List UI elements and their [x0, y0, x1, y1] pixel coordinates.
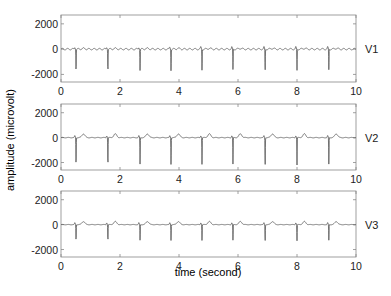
x-tick-label: 10: [350, 173, 362, 185]
x-tick-label: 6: [235, 85, 241, 97]
y-tick-label: 2000: [35, 107, 59, 119]
x-tick-label: 0: [58, 173, 64, 185]
y-tick-label: -2000: [31, 157, 58, 169]
panels: -2000020000246810V1-2000020000246810V2-2…: [31, 15, 378, 272]
y-tick-label: 0: [52, 219, 58, 231]
x-tick-label: 4: [176, 85, 182, 97]
lead-label-v1: V1: [365, 43, 378, 55]
panel-v3: -2000020000246810V3: [31, 191, 378, 272]
ecg-trace-v2: [61, 134, 356, 165]
x-tick-label: 2: [117, 85, 123, 97]
y-tick-label: 0: [52, 43, 58, 55]
y-tick-label: -2000: [31, 68, 58, 80]
x-tick-label: 2: [117, 173, 123, 185]
chart-canvas: -2000020000246810V1-2000020000246810V2-2…: [0, 0, 391, 296]
x-tick-label: 10: [350, 85, 362, 97]
x-axis-label: time (second): [175, 266, 242, 278]
axes-frame: [61, 104, 356, 170]
x-tick-label: 8: [294, 85, 300, 97]
panel-v1: -2000020000246810V1: [31, 15, 378, 97]
x-tick-label: 6: [235, 173, 241, 185]
y-tick-label: 2000: [35, 194, 59, 206]
x-tick-label: 10: [350, 260, 362, 272]
y-tick-label: 2000: [35, 18, 59, 30]
panel-v2: -2000020000246810V2: [31, 104, 378, 185]
x-tick-label: 0: [58, 85, 64, 97]
ecg-chart: -2000020000246810V1-2000020000246810V2-2…: [0, 0, 391, 296]
axes-frame: [61, 191, 356, 257]
y-tick-label: -2000: [31, 244, 58, 256]
lead-label-v3: V3: [365, 219, 378, 231]
x-tick-label: 8: [294, 173, 300, 185]
x-tick-label: 8: [294, 260, 300, 272]
lead-label-v2: V2: [365, 132, 378, 144]
x-tick-label: 4: [176, 173, 182, 185]
x-tick-label: 0: [58, 260, 64, 272]
y-tick-label: 0: [52, 132, 58, 144]
ecg-trace-v1: [61, 47, 356, 71]
ecg-trace-v3: [61, 221, 356, 240]
y-axis-label: amplitude (microvolt): [4, 89, 16, 191]
x-tick-label: 2: [117, 260, 123, 272]
